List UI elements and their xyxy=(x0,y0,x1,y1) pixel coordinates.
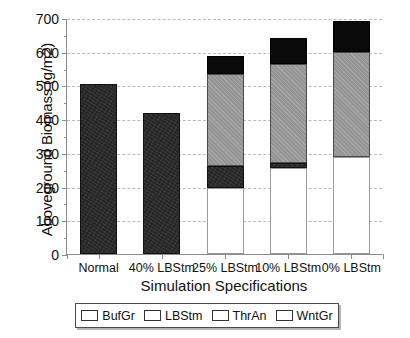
bar-segment-bufgr xyxy=(333,157,370,254)
y-axis-tick xyxy=(62,120,67,121)
legend-item-wntgr[interactable]: WntGr xyxy=(276,309,333,323)
x-axis-tick xyxy=(351,254,352,259)
y-axis-minor-tick xyxy=(64,238,67,239)
y-axis-minor-tick xyxy=(64,204,67,205)
legend-item-bufgr[interactable]: BufGr xyxy=(81,309,135,323)
y-axis-tick xyxy=(62,221,67,222)
bar-segment-wntgr xyxy=(333,21,370,52)
y-axis-tick-label: 700 xyxy=(36,11,59,27)
y-axis-minor-tick xyxy=(64,171,67,172)
bar-0-lbstm xyxy=(333,21,370,254)
x-axis-boundary-tick xyxy=(67,254,68,259)
plot-area: 0100200300400500600700Normal40% LBStm25%… xyxy=(66,19,382,255)
black-swatch xyxy=(276,310,293,321)
y-axis-tick-label: 500 xyxy=(36,78,59,94)
x-axis-tick xyxy=(162,254,163,259)
y-axis-minor-tick xyxy=(64,70,67,71)
y-axis-minor-tick xyxy=(64,137,67,138)
legend-label: LBStm xyxy=(165,309,203,323)
bar-segment-lbstm xyxy=(143,113,180,254)
y-axis-tick-label: 0 xyxy=(51,247,59,263)
legend-label: BufGr xyxy=(102,309,135,323)
x-axis-tick-label: Normal xyxy=(78,261,118,275)
x-axis-tick-label: 40% LBStm xyxy=(129,261,195,275)
chart-figure: Aboveground Biomass (g/m2) 0100200300400… xyxy=(0,0,410,338)
y-axis-tick-label: 100 xyxy=(36,213,59,229)
bar-segment-thran xyxy=(270,64,307,163)
x-axis-tick-label: 25% LBStm xyxy=(192,261,258,275)
x-axis-tick xyxy=(225,254,226,259)
bar-segment-lbstm xyxy=(207,166,244,188)
y-axis-tick-label: 300 xyxy=(36,146,59,162)
bar-segment-thran xyxy=(333,52,370,157)
bar-25-lbstm xyxy=(207,56,244,254)
x-axis-tick xyxy=(99,254,100,259)
legend-label: WntGr xyxy=(297,309,333,323)
x-axis-boundary-tick xyxy=(383,254,384,259)
x-axis-tick xyxy=(288,254,289,259)
bar-40-lbstm xyxy=(143,113,180,254)
bar-segment-wntgr xyxy=(207,56,244,74)
gray-swatch xyxy=(212,310,229,321)
chart-legend: BufGrLBStmThrAnWntGr xyxy=(75,303,339,328)
legend-item-lbstm[interactable]: LBStm xyxy=(144,309,203,323)
bar-segment-thran xyxy=(207,74,244,166)
y-axis-minor-tick xyxy=(64,36,67,37)
dark-swatch xyxy=(144,310,161,321)
bar-segment-lbstm xyxy=(80,84,117,254)
y-axis-tick xyxy=(62,19,67,20)
legend-item-thran[interactable]: ThrAn xyxy=(212,309,267,323)
y-axis-tick xyxy=(62,86,67,87)
y-axis-tick xyxy=(62,53,67,54)
y-axis-tick xyxy=(62,154,67,155)
y-axis-tick-label: 200 xyxy=(36,180,59,196)
bar-segment-bufgr xyxy=(207,188,244,254)
bar-segment-wntgr xyxy=(270,38,307,64)
y-axis-tick xyxy=(62,188,67,189)
x-axis-tick-label: 10% LBStm xyxy=(255,261,321,275)
bar-normal xyxy=(80,84,117,254)
y-axis-tick-label: 400 xyxy=(36,112,59,128)
y-axis-minor-tick xyxy=(64,103,67,104)
x-axis-tick-label: 0% LBStm xyxy=(322,261,381,275)
y-axis-tick-label: 600 xyxy=(36,45,59,61)
legend-label: ThrAn xyxy=(233,309,267,323)
bar-segment-lbstm xyxy=(270,163,307,168)
bar-segment-bufgr xyxy=(270,168,307,254)
white-swatch xyxy=(81,310,98,321)
x-axis-title: Simulation Specifications xyxy=(66,277,382,294)
bar-10-lbstm xyxy=(270,38,307,254)
